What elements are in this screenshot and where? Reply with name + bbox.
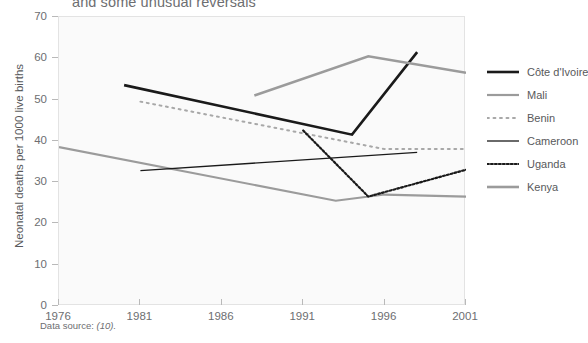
x-tick-mark [221,299,222,305]
x-tick-label: 1981 [127,310,153,322]
y-tick-label: 40 [34,134,47,146]
y-tick-label: 70 [34,10,47,22]
legend-label-cameroon: Cameroon [527,135,578,147]
x-tick-mark [58,299,59,305]
x-tick-mark [139,299,140,305]
legend-item-mali[interactable]: Mali [487,83,581,106]
series-line-kenya [254,56,466,95]
y-tick-label: 60 [34,51,47,63]
series-line-uganda [303,131,466,197]
y-axis: Neonatal deaths per 1000 live births 010… [0,0,58,343]
legend-item-c-te-d-ivoire[interactable]: Côte d'Ivoire [487,60,581,83]
x-tick-label: 1991 [289,310,315,322]
legend-item-uganda[interactable]: Uganda [487,152,581,175]
series-line-cameroon [140,152,417,170]
source-note: Data source: (10). [40,320,116,331]
y-tick-label: 10 [34,258,47,270]
legend-label-benin: Benin [527,112,555,124]
legend-item-kenya[interactable]: Kenya [487,175,581,198]
legend-label-kenya: Kenya [527,181,558,193]
legend-item-benin[interactable]: Benin [487,106,581,129]
series-line-c-te-d-ivoire [124,52,417,135]
legend-item-cameroon[interactable]: Cameroon [487,129,581,152]
series-line-benin [140,102,466,149]
legend-swatch-mali [487,89,519,101]
x-tick-mark [302,299,303,305]
chart-legend: Côte d'IvoireMaliBeninCameroonUgandaKeny… [487,60,581,198]
legend-swatch-uganda [487,158,519,170]
x-tick-label: 1986 [208,310,234,322]
y-tick-label: 20 [34,216,47,228]
y-tick-label: 50 [34,93,47,105]
x-tick-mark [384,299,385,305]
y-tick-label: 30 [34,175,47,187]
legend-swatch-cameroon [487,135,519,147]
legend-label-c-te-d-ivoire: Côte d'Ivoire [527,66,588,78]
series-canvas [59,17,466,306]
legend-label-mali: Mali [527,89,547,101]
x-tick-label: 2001 [452,310,478,322]
source-note-ref: (10). [97,320,117,331]
x-tick-mark [465,299,466,305]
x-tick-label: 1996 [371,310,397,322]
y-axis-title: Neonatal deaths per 1000 live births [13,41,25,271]
plot-area [58,16,465,305]
legend-label-uganda: Uganda [527,158,566,170]
legend-swatch-c-te-d-ivoire [487,66,519,78]
chart-title: and some unusual reversals [72,0,402,8]
series-line-mali [59,147,466,201]
source-note-label: Data source: [40,320,94,331]
legend-swatch-benin [487,112,519,124]
legend-swatch-kenya [487,181,519,193]
